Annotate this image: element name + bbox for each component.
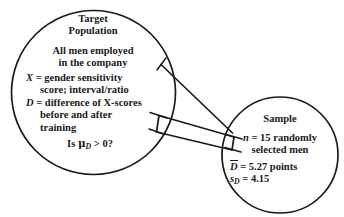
diagram-canvas: Target Population All men employed in th…	[0, 0, 344, 217]
target-population-circle	[12, 11, 176, 175]
sample-circle	[222, 97, 338, 213]
connector-band-line-top	[159, 116, 234, 138]
connector-band-line-bottom	[157, 132, 233, 150]
diagram-shapes	[0, 0, 344, 217]
